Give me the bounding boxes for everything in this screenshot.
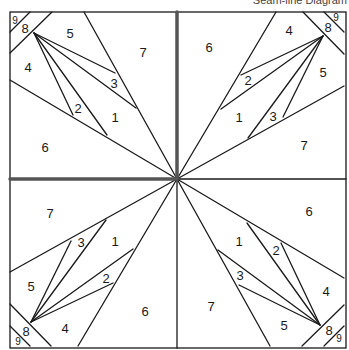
piece-label-bottom-left-4: 4 (61, 321, 68, 336)
piece-label-top-left-4: 4 (24, 60, 31, 75)
piece-label-bottom-left-7: 7 (46, 206, 53, 221)
piece-label-top-left-9: 9 (12, 15, 18, 26)
piece-label-top-right-1: 1 (235, 110, 242, 125)
piece-label-bottom-right-2: 2 (272, 243, 279, 258)
piece-label-top-right-3: 3 (269, 109, 276, 124)
piece-label-bottom-left-8: 8 (22, 324, 29, 339)
piece-label-bottom-right-3: 3 (236, 268, 243, 283)
piece-label-top-right-7: 7 (300, 138, 307, 153)
piece-label-bottom-left-5: 5 (27, 279, 34, 294)
piece-label-bottom-right-4: 4 (322, 284, 329, 299)
piece-label-top-left-8: 8 (21, 21, 28, 36)
quadrant-bottom-left (10, 179, 177, 346)
piece-label-bottom-left-3: 3 (77, 235, 84, 250)
quadrant-top-right (177, 12, 344, 179)
piece-label-bottom-right-8: 8 (325, 323, 332, 338)
piece-label-bottom-left-1: 1 (111, 234, 118, 249)
piece-label-top-left-1: 1 (111, 110, 118, 125)
piece-label-top-left-2: 2 (74, 101, 81, 116)
piece-label-bottom-right-5: 5 (280, 318, 287, 333)
quadrant-top-left (10, 12, 177, 179)
piece-label-top-right-9: 9 (333, 12, 339, 23)
piece-label-bottom-right-1: 1 (235, 234, 242, 249)
piece-label-top-right-6: 6 (205, 40, 212, 55)
quilt-block-diagram: 985743216985743216985743216985743216 (0, 0, 349, 350)
piece-label-top-right-2: 2 (244, 73, 251, 88)
piece-label-top-left-3: 3 (110, 76, 117, 91)
piece-label-top-left-7: 7 (139, 45, 146, 60)
piece-label-bottom-right-9: 9 (336, 333, 342, 344)
piece-label-top-left-6: 6 (41, 140, 48, 155)
piece-label-bottom-left-2: 2 (102, 271, 109, 286)
piece-label-top-left-5: 5 (66, 26, 73, 41)
piece-label-top-right-4: 4 (285, 23, 292, 38)
quadrant-bottom-right (177, 179, 344, 346)
piece-label-bottom-left-9: 9 (15, 336, 21, 347)
piece-label-top-right-5: 5 (319, 65, 326, 80)
piece-label-bottom-right-7: 7 (207, 299, 214, 314)
piece-label-bottom-right-6: 6 (305, 204, 312, 219)
piece-label-bottom-left-6: 6 (141, 304, 148, 319)
piece-label-top-right-8: 8 (324, 20, 331, 35)
